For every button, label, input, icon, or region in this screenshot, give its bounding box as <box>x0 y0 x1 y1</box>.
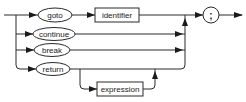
terminal-return-label: return <box>43 65 64 74</box>
arrow-icon <box>182 18 188 26</box>
terminal-goto-label: goto <box>47 11 63 20</box>
arrow-icon <box>87 12 95 18</box>
arrow-icon <box>25 31 33 37</box>
arrow-icon <box>89 86 97 92</box>
arrow-icon <box>26 47 34 53</box>
exit-arrow-icon <box>234 12 243 18</box>
terminal-semicolon-label: ; <box>209 10 212 21</box>
terminal-continue-label: continue <box>39 30 70 39</box>
arrow-icon <box>195 12 203 18</box>
nonterminal-identifier-label: identifier <box>102 11 133 20</box>
railroad-diagram: goto identifier continue break return ex… <box>0 0 246 102</box>
arrow-icon <box>28 66 36 72</box>
expression-branch-in <box>80 69 97 89</box>
terminal-break-label: break <box>42 46 63 55</box>
return-line <box>70 15 185 69</box>
arrow-icon <box>29 12 37 18</box>
arrow-icon <box>175 47 183 53</box>
arrow-icon <box>152 71 158 79</box>
arrow-icon <box>175 31 183 37</box>
nonterminal-expression-label: expression <box>101 85 140 94</box>
